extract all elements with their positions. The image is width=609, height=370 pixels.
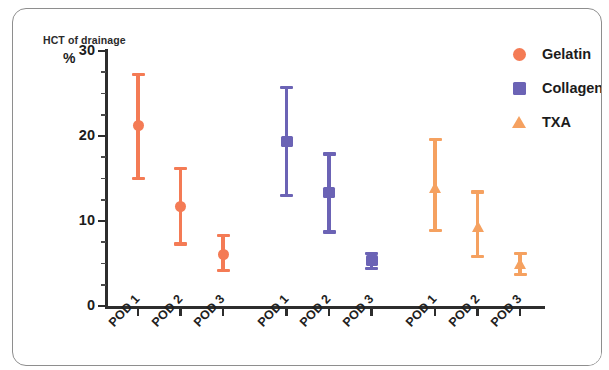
marker-circle-icon: [133, 120, 144, 131]
y-axis-minor-tick: [101, 114, 106, 116]
legend-item-collagen[interactable]: Collagen: [508, 71, 602, 105]
legend-item-label: Gelatin: [542, 46, 591, 62]
y-axis-minor-tick: [101, 241, 106, 243]
marker-circle-icon: [175, 201, 186, 212]
error-bar-cap-lower: [174, 242, 187, 245]
data-point-txa-pod1: [425, 9, 445, 366]
y-axis-tick-label: 30: [55, 43, 95, 58]
legend-marker-triangle-icon: [512, 116, 526, 128]
y-axis-tick: [98, 50, 106, 53]
y-axis-tick: [98, 305, 106, 308]
data-point-collagen-pod3: [362, 9, 382, 366]
y-axis-minor-tick: [101, 71, 106, 73]
y-axis-minor-tick: [101, 178, 106, 180]
y-axis-tick: [98, 220, 106, 223]
error-bar-cap-upper: [471, 190, 484, 193]
error-bar-cap-upper: [174, 167, 187, 170]
error-bar-cap-lower: [429, 229, 442, 232]
data-point-gelatin-pod3: [213, 9, 233, 366]
data-point-collagen-pod2: [319, 9, 339, 366]
error-bar-cap-lower: [323, 230, 336, 233]
error-bar-cap-upper: [429, 138, 442, 141]
y-axis-minor-tick: [101, 199, 106, 201]
y-axis-tick-label: 20: [55, 128, 95, 143]
y-axis-tick-label: 0: [55, 298, 95, 313]
data-point-collagen-pod1: [277, 9, 297, 366]
data-point-txa-pod2: [468, 9, 488, 366]
marker-square-icon: [366, 255, 378, 266]
error-bar-cap-lower: [280, 194, 293, 197]
marker-triangle-icon: [472, 221, 484, 232]
legend-marker-circle-icon: [513, 48, 526, 61]
error-bar-cap-upper: [132, 73, 145, 76]
y-axis-minor-tick: [101, 284, 106, 286]
y-axis-tick: [98, 135, 106, 138]
error-bar-cap-upper: [514, 252, 527, 255]
marker-triangle-icon: [429, 182, 441, 193]
legend-item-label: Collagen: [542, 80, 602, 96]
marker-square-icon: [323, 187, 335, 198]
figure-frame: HCT of drainage % 0102030 POD 1POD 2POD …: [12, 8, 602, 366]
y-axis-minor-tick: [101, 156, 106, 158]
chart-legend: GelatinCollagenTXA: [508, 37, 602, 139]
error-bar-cap-lower: [365, 267, 378, 270]
y-axis-minor-tick: [101, 93, 106, 95]
marker-square-icon: [281, 136, 293, 147]
error-bar-cap-upper: [280, 86, 293, 89]
y-axis-tick-label: 10: [55, 213, 95, 228]
legend-swatch-box: [508, 48, 530, 61]
legend-marker-square-icon: [513, 82, 526, 95]
error-bar-cap-lower: [217, 269, 230, 272]
marker-circle-icon: [218, 249, 229, 260]
error-bar-cap-lower: [471, 255, 484, 258]
error-bar-cap-lower: [132, 177, 145, 180]
marker-triangle-icon: [514, 258, 526, 269]
legend-swatch-box: [508, 116, 530, 128]
legend-item-gelatin[interactable]: Gelatin: [508, 37, 602, 71]
data-point-gelatin-pod1: [128, 9, 148, 366]
data-point-gelatin-pod2: [171, 9, 191, 366]
legend-item-txa[interactable]: TXA: [508, 105, 602, 139]
error-bar-cap-upper: [217, 234, 230, 237]
legend-item-label: TXA: [542, 114, 571, 130]
y-axis-minor-tick: [101, 263, 106, 265]
error-bar-cap-lower: [514, 273, 527, 276]
error-bar-cap-upper: [323, 152, 336, 155]
legend-swatch-box: [508, 82, 530, 95]
